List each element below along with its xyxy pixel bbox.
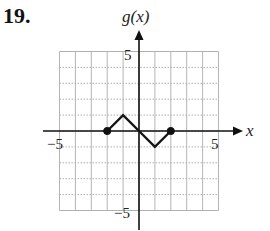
x-axis-label: x <box>245 121 254 140</box>
endpoint-dot <box>167 127 174 134</box>
axes <box>43 30 243 230</box>
y-axis-label: g(x) <box>122 7 150 26</box>
x-tick-max: 5 <box>211 136 219 152</box>
y-tick-max: 5 <box>124 47 132 63</box>
graph: g(x) x 5 −5 −5 5 <box>0 0 270 231</box>
endpoint-dot <box>104 127 111 134</box>
y-tick-min: −5 <box>114 205 130 221</box>
x-axis-arrow-icon <box>233 127 243 136</box>
y-axis-arrow-icon <box>135 30 144 40</box>
x-tick-min: −5 <box>47 136 63 152</box>
